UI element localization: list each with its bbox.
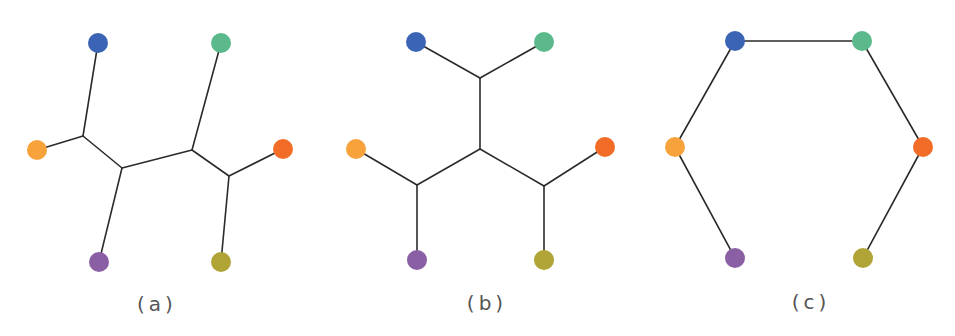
node-red-orange: [913, 137, 933, 157]
node-green: [852, 31, 872, 51]
edge-red_orange-olive: [863, 147, 923, 258]
edge-j4-olive: [221, 176, 229, 262]
node-blue: [88, 33, 108, 53]
edge-red_orange-j4: [544, 147, 605, 186]
edge-j2-purple: [99, 168, 122, 262]
edge-j1-j2: [83, 136, 122, 168]
panel-label: (a): [137, 292, 177, 316]
node-olive: [853, 248, 873, 268]
node-green: [211, 33, 231, 53]
edge-blue-light_orange: [675, 41, 735, 147]
edge-j3-green: [192, 43, 221, 150]
node-light-orange: [665, 137, 685, 157]
diagram-figure: (a) (b) (c): [0, 0, 955, 336]
edge-j2-j4: [480, 149, 544, 186]
node-purple: [407, 250, 427, 270]
edge-light_orange-purple: [675, 147, 735, 258]
node-olive: [534, 250, 554, 270]
edge-green-j1: [480, 42, 544, 78]
edge-green-red_orange: [862, 41, 923, 147]
node-red-orange: [273, 139, 293, 159]
node-purple: [89, 252, 109, 272]
node-green: [534, 32, 554, 52]
panel-label: (c): [792, 290, 831, 314]
node-purple: [725, 248, 745, 268]
panel-b: (b): [346, 32, 615, 315]
node-red-orange: [595, 137, 615, 157]
node-blue: [406, 32, 426, 52]
edge-j2-j3: [417, 149, 480, 185]
node-olive: [211, 252, 231, 272]
edge-j2-j3: [122, 150, 192, 168]
node-blue: [725, 31, 745, 51]
edge-j3-j4: [192, 150, 229, 176]
edge-blue-j1: [416, 42, 480, 78]
panel-label: (b): [467, 291, 507, 315]
panel-a: (a): [27, 33, 293, 316]
node-light-orange: [27, 140, 47, 160]
node-light-orange: [346, 139, 366, 159]
edge-light_orange-j3: [356, 149, 417, 185]
edge-blue-j1: [83, 43, 98, 136]
panel-c: (c): [665, 31, 933, 314]
